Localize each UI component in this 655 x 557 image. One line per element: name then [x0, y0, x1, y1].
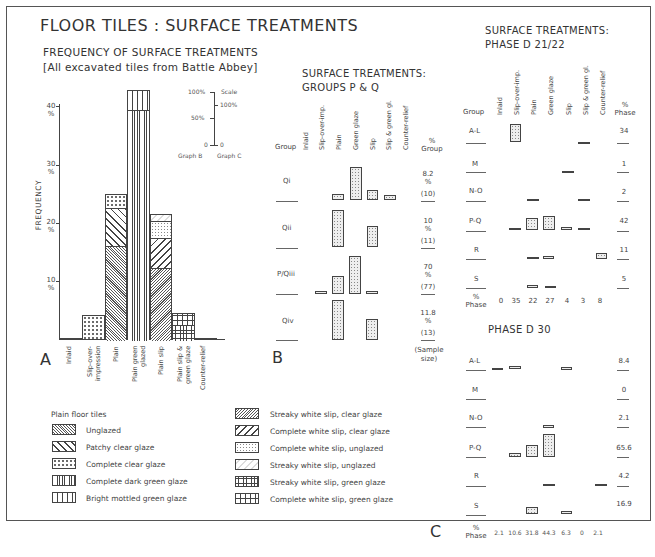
row-group-label: A-L [469, 127, 480, 135]
legend-label: Complete clear glaze [86, 460, 165, 469]
panel-b-title-2: GROUPS P & Q [302, 80, 379, 95]
col-slip-over-imp: Slip-over-imp. [513, 70, 521, 115]
bar [509, 366, 521, 369]
row-group-label: P/Qiii [277, 270, 295, 278]
row-group-label: N-O [469, 414, 482, 422]
scale-c-100: 100% [220, 101, 237, 108]
page-title: FLOOR TILES : SURFACE TREATMENTS [40, 16, 358, 35]
swatch-patchy [52, 441, 76, 452]
col-plain: Plain [335, 108, 343, 150]
segment-bright-mottled-green [128, 91, 149, 110]
phase-total: 35 [510, 297, 522, 305]
legend-label: Unglazed [86, 426, 121, 435]
legend-label: Streaky white slip, unglazed [270, 461, 376, 470]
phase-label: % Phase [465, 524, 487, 540]
bar [543, 256, 554, 259]
bar [543, 484, 555, 486]
sample-size-note: (Sample size) [412, 346, 446, 364]
category-label: Inlaid [65, 346, 73, 396]
phase-total: 44.3 [541, 529, 557, 536]
phase-total: 2.1 [492, 529, 506, 536]
bar [509, 228, 521, 230]
bar-pqiii-plain [332, 276, 344, 294]
bar-qiv-plain [332, 300, 344, 340]
panel-c-top-title-2: PHASE D 21/22 [485, 37, 565, 52]
swatch-streaky-slip-green [235, 476, 259, 487]
category-label: Slip-over-impression [86, 346, 102, 396]
bar-qii-plain [332, 210, 344, 247]
bar-plain-green-glazed [127, 90, 150, 340]
col-plain: Plain [530, 70, 538, 115]
col-green-glaze: Green glaze [547, 70, 555, 115]
panel-b-title-1: SURFACE TREATMENTS: [302, 66, 426, 81]
segment-complete-slip-green [173, 314, 194, 325]
phase-total: 0 [576, 529, 588, 536]
pct-phase-header: % Phase [612, 101, 638, 117]
scale-b-50: 50% [191, 114, 204, 121]
ytick-40: 40 % [44, 102, 58, 118]
category-label: Counter-relief [199, 346, 215, 396]
scale-label: Scale [221, 88, 237, 95]
row-pct: 5 [616, 275, 632, 283]
row-pct: 1 [616, 160, 632, 168]
swatch-mottled [52, 492, 76, 503]
swatch-streaky-slip-clear [235, 408, 259, 419]
bar [543, 434, 555, 457]
bar [561, 367, 572, 370]
bar-plain-slip-green-glaze [172, 313, 195, 340]
scale-b-100: 100% [188, 88, 205, 95]
row-pct: 65.6 [615, 444, 633, 452]
scale-b-0: 0 [204, 141, 208, 148]
row-pct: 11 [616, 246, 632, 254]
segment-dark-green [128, 110, 149, 341]
row-group-label: N-O [469, 187, 482, 195]
col-slip-over-imp: Slip-over-imp. [318, 108, 326, 150]
row-pct: 4.2 [615, 472, 633, 480]
segment-complete-slip-unglazed [151, 221, 171, 238]
bar [527, 257, 539, 259]
bar [543, 425, 554, 428]
bar-pqiii-slip-over [315, 291, 327, 294]
y-axis [59, 104, 60, 340]
legend-label: Complete white slip, unglazed [270, 444, 383, 453]
row-group-label: Qii [282, 224, 291, 232]
row-pct: 16.9 [615, 500, 633, 508]
panel-letter-c: C [430, 522, 441, 541]
segment-streaky-slip-green [173, 325, 194, 341]
row-pct: 0 [615, 386, 633, 394]
phase-total: 10.6 [507, 529, 523, 536]
row-pct: 2.1 [615, 414, 633, 422]
row-group-label: R [474, 472, 479, 480]
legend-heading: Plain floor tiles [51, 410, 106, 419]
scale-axis [214, 92, 215, 145]
row-n: (77) [418, 283, 438, 291]
row-n: (13) [418, 329, 438, 337]
bar [509, 453, 521, 457]
segment-complete-slip-clear [151, 238, 171, 268]
ytick-30: 30 % [44, 160, 58, 176]
row-pct: 11.8 [418, 309, 438, 317]
bar [578, 199, 590, 201]
group-header: Group [463, 108, 484, 116]
bar-slip-over-impression [82, 315, 105, 340]
phase-label: % Phase [465, 293, 487, 309]
col-inlaid: Inlaid [302, 108, 310, 150]
bar-qii-slip [367, 226, 378, 247]
row-group-label: A-L [469, 357, 480, 365]
row-group-label: S [474, 502, 478, 510]
phase-total: 8 [594, 297, 606, 305]
bar-qi-slip [367, 190, 378, 200]
bar [596, 253, 607, 259]
row-pct: 34 [616, 127, 632, 135]
bar-plain [105, 194, 127, 340]
bar [578, 142, 590, 144]
phase-total: 22 [527, 297, 539, 305]
bar [562, 171, 574, 173]
col-slip: Slip [369, 108, 377, 150]
row-n: (11) [418, 237, 438, 245]
row-pct: 8.2 [418, 170, 438, 178]
phase-total: 2.1 [592, 529, 604, 536]
ytick-10: 10 % [44, 276, 58, 292]
bar-qi-green [350, 167, 362, 200]
bar-qi-slip-green [384, 195, 396, 200]
